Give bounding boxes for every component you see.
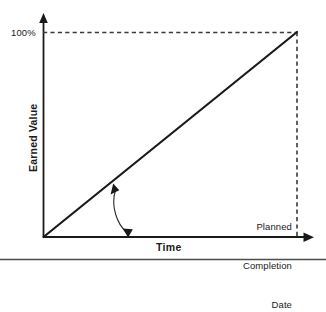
y-axis-arrowhead-icon	[39, 13, 48, 23]
annotation-line-1: Planned	[243, 220, 292, 233]
y-axis-max-tick-label: 100%	[11, 28, 36, 38]
x-axis-arrowhead-icon	[304, 232, 315, 242]
x-axis-title: Time	[156, 242, 182, 253]
y-axis-title: Earned Value	[28, 104, 39, 172]
slope-angle-arrow-icon	[111, 184, 133, 238]
planned-completion-date-annotation: Planned Completion Date	[243, 194, 292, 312]
y-axis	[39, 13, 48, 237]
annotation-line-3: Date	[243, 298, 292, 311]
slope-angle-arrowhead-bottom-icon	[123, 229, 133, 238]
annotation-line-2: Completion	[243, 259, 292, 272]
slope-angle-arc	[114, 190, 127, 232]
